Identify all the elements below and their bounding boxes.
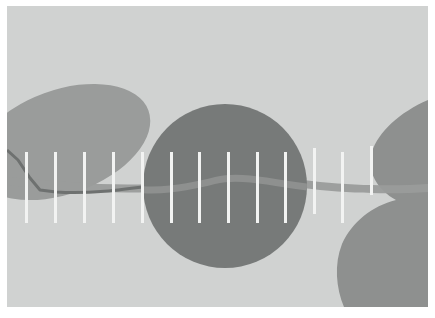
white-vertical-bar-11: [313, 148, 316, 214]
white-vertical-bar-4: [112, 152, 115, 223]
white-vertical-bar-12: [341, 152, 344, 223]
white-vertical-bar-8: [227, 152, 230, 223]
white-vertical-bar-2: [54, 152, 57, 223]
white-vertical-bar-3: [83, 152, 86, 223]
white-vertical-bar-5: [141, 152, 144, 223]
white-vertical-bar-9: [256, 152, 259, 223]
white-vertical-bar-6: [170, 152, 173, 223]
abstract-composition: [0, 0, 435, 318]
white-vertical-bar-7: [198, 152, 201, 223]
framed-artwork: [0, 6, 428, 307]
white-vertical-bar-10: [284, 152, 287, 223]
white-vertical-bar-1: [25, 152, 28, 223]
image-canvas: [0, 0, 435, 318]
white-vertical-bar-13: [370, 146, 373, 195]
